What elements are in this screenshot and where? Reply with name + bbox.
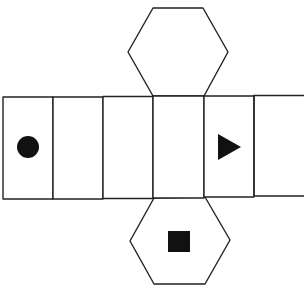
circle-icon <box>17 136 39 158</box>
rectangle-strip <box>3 96 304 200</box>
square-icon <box>168 231 190 252</box>
top-hexagon-face <box>128 8 228 96</box>
rect-face-2 <box>53 97 103 199</box>
rect-face-3 <box>103 97 153 199</box>
hexagonal-prism-net <box>0 0 304 285</box>
rect-face-4 <box>153 96 204 198</box>
rect-face-6 <box>254 96 304 197</box>
